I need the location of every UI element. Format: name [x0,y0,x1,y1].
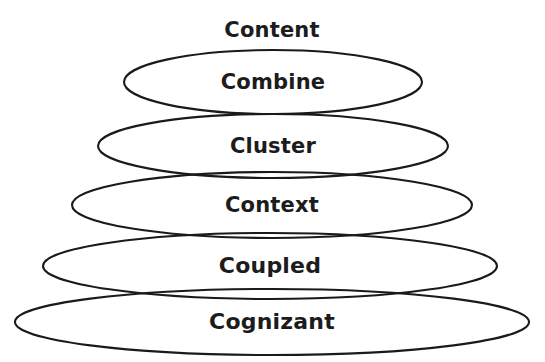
layer-label-cluster: Cluster [230,136,316,157]
layer-label-combine: Combine [221,72,326,93]
diagram-apex-title: Content [224,20,319,41]
ellipse-pyramid-diagram: Content Cognizant Coupled Context Cluste… [0,0,545,362]
layer-label-context: Context [225,195,319,216]
layer-label-cognizant: Cognizant [209,311,335,333]
pyramid-ellipses-svg [0,0,545,362]
layer-label-coupled: Coupled [219,255,321,277]
